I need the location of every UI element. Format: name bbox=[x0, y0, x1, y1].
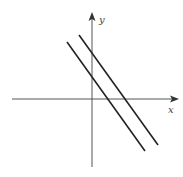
x-axis-label: x bbox=[168, 104, 174, 115]
y-axis-label: y bbox=[98, 14, 105, 25]
diagram-canvas: y x bbox=[0, 0, 183, 177]
coordinate-plane: y x bbox=[0, 0, 183, 177]
line-2 bbox=[79, 35, 158, 145]
line-1 bbox=[67, 42, 145, 151]
